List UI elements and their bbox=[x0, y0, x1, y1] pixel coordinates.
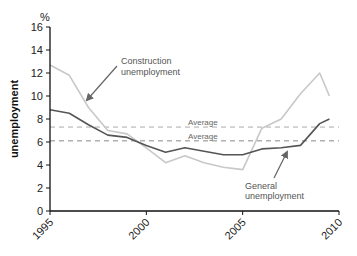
y-tick-label: 10 bbox=[31, 90, 43, 102]
annotations: ConstructionunemploymentGeneralunemploym… bbox=[87, 56, 305, 201]
x-tick-label: 2000 bbox=[126, 216, 152, 242]
x-tick-label: 2010 bbox=[319, 216, 345, 242]
y-tick-label: 0 bbox=[37, 205, 43, 217]
general-annotation-line1: General bbox=[245, 181, 277, 191]
unemployment-line-chart: AverageAverage 0246810121416%19952000200… bbox=[0, 0, 357, 256]
y-unit-label: % bbox=[40, 11, 50, 23]
construction-annotation-line2: unemployment bbox=[121, 67, 181, 77]
axes: 0246810121416%1995200020052010unemployme… bbox=[8, 11, 344, 242]
general-arrow bbox=[274, 152, 287, 178]
construction-arrow bbox=[87, 66, 117, 100]
y-tick-label: 8 bbox=[37, 113, 43, 125]
y-tick-label: 14 bbox=[31, 44, 43, 56]
y-axis-title: unemployment bbox=[8, 80, 20, 159]
average-label: Average bbox=[188, 118, 218, 127]
y-tick-label: 12 bbox=[31, 67, 43, 79]
x-tick-label: 2005 bbox=[222, 216, 248, 242]
y-tick-label: 6 bbox=[37, 136, 43, 148]
y-tick-label: 4 bbox=[37, 159, 43, 171]
general-annotation-line2: unemployment bbox=[245, 191, 305, 201]
x-tick-label: 1995 bbox=[30, 216, 56, 242]
construction-annotation-line1: Construction bbox=[121, 56, 172, 66]
y-tick-label: 2 bbox=[37, 182, 43, 194]
average-label: Average bbox=[188, 132, 218, 141]
average-lines: AverageAverage bbox=[50, 118, 339, 141]
